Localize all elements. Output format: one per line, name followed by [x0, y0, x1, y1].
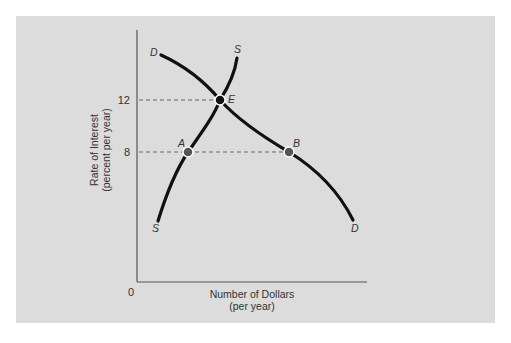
- supply-label-top: S: [234, 43, 241, 55]
- y-axis-title-line2: (percent per year): [100, 108, 112, 191]
- origin-label: 0: [128, 286, 134, 298]
- demand-label-bottom: D: [351, 222, 359, 234]
- point-e-marker: [215, 95, 225, 105]
- supply-curve: [158, 58, 237, 221]
- point-a-label: A: [177, 137, 185, 149]
- demand-label-top: D: [150, 46, 158, 58]
- tick-12: 12: [118, 94, 130, 106]
- point-b-label: B: [293, 137, 300, 149]
- x-axis-title-line2: (per year): [229, 300, 275, 312]
- x-axis-title-line1: Number of Dollars: [210, 288, 295, 300]
- tick-8: 8: [124, 146, 130, 158]
- supply-demand-chart: 12 8 0 Number of Dollars (per year) Rate…: [0, 0, 511, 343]
- point-e-label: E: [228, 93, 236, 105]
- supply-label-bottom: S: [152, 222, 159, 234]
- y-axis-title-line1: Rate of Interest: [88, 114, 100, 186]
- demand-curve: [161, 55, 353, 220]
